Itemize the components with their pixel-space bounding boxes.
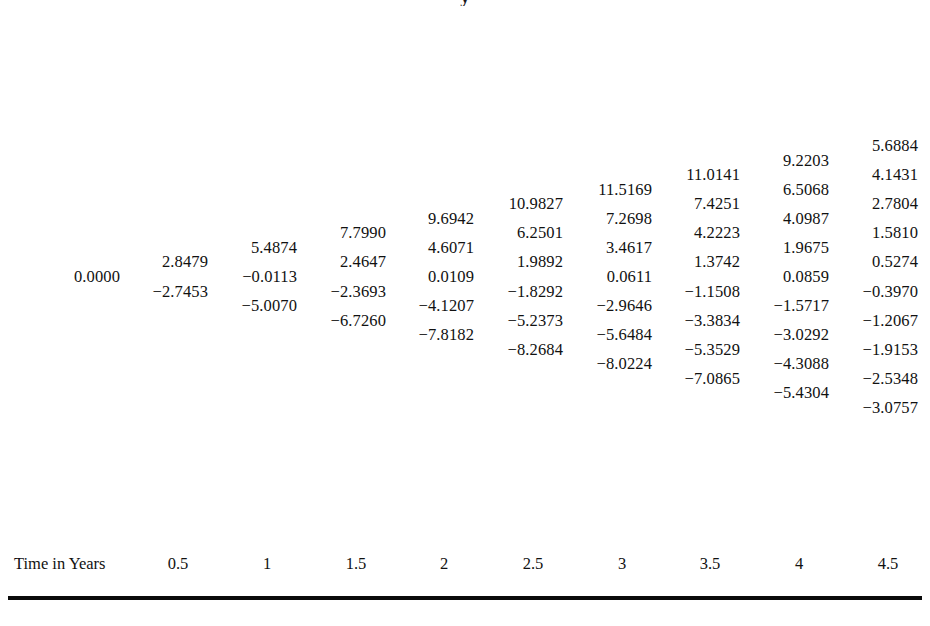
time-axis-tick: 3.5 xyxy=(700,552,721,576)
lattice-cell: −1.5717 xyxy=(774,297,829,315)
lattice-cell: −4.3088 xyxy=(774,355,829,373)
lattice-cell: −0.0113 xyxy=(242,268,297,286)
lattice-cell: 4.1431 xyxy=(872,166,918,184)
lattice-grid: 0.00002.8479−2.74535.4874−0.0113−5.00707… xyxy=(0,0,930,548)
lattice-cell: −1.1508 xyxy=(685,283,740,301)
lattice-cell: 1.9892 xyxy=(517,253,563,271)
lattice-cell: 11.0141 xyxy=(686,166,740,184)
lattice-cell: 2.8479 xyxy=(162,253,208,271)
time-axis-tick: 2.5 xyxy=(523,552,544,576)
lattice-cell: −5.4304 xyxy=(774,384,829,402)
lattice-cell: −3.0757 xyxy=(863,399,918,417)
lattice-cell: 4.2223 xyxy=(694,224,740,242)
lattice-cell: −4.1207 xyxy=(419,297,474,315)
lattice-cell: −8.2684 xyxy=(508,341,563,359)
lattice-cell: 5.6884 xyxy=(872,137,918,155)
time-axis: Time in Years 0.511.522.533.544.5 xyxy=(0,552,930,586)
lattice-cell: −1.9153 xyxy=(863,341,918,359)
lattice-cell: −5.2373 xyxy=(508,312,563,330)
time-axis-tick: 4 xyxy=(795,552,803,576)
lattice-cell: −5.6484 xyxy=(597,326,652,344)
lattice-page: y 0.00002.8479−2.74535.4874−0.0113−5.007… xyxy=(0,0,930,626)
time-axis-label: Time in Years xyxy=(14,552,106,576)
lattice-cell: 2.4647 xyxy=(340,253,386,271)
lattice-cell: 2.7804 xyxy=(872,195,918,213)
lattice-cell: 1.5810 xyxy=(872,224,918,242)
time-axis-tick: 4.5 xyxy=(878,552,899,576)
lattice-cell: 3.4617 xyxy=(606,239,652,257)
time-axis-tick: 0.5 xyxy=(168,552,189,576)
lattice-cell: −3.0292 xyxy=(774,326,829,344)
lattice-cell: −3.3834 xyxy=(685,312,740,330)
lattice-cell: 5.4874 xyxy=(251,239,297,257)
lattice-cell: −7.8182 xyxy=(419,326,474,344)
lattice-cell: −2.9646 xyxy=(597,297,652,315)
lattice-cell: −0.3970 xyxy=(863,283,918,301)
lattice-cell: 0.0859 xyxy=(783,268,829,286)
lattice-cell: 0.0611 xyxy=(607,268,652,286)
lattice-cell: 4.6071 xyxy=(428,239,474,257)
time-axis-tick: 1.5 xyxy=(346,552,367,576)
lattice-cell: 1.3742 xyxy=(694,253,740,271)
lattice-cell: 7.2698 xyxy=(606,210,652,228)
bottom-rule-divider xyxy=(8,596,922,600)
lattice-cell: 6.2501 xyxy=(517,224,563,242)
lattice-cell: −7.0865 xyxy=(685,370,740,388)
lattice-cell: −8.0224 xyxy=(597,355,652,373)
lattice-cell: 10.9827 xyxy=(509,195,563,213)
lattice-cell: 9.2203 xyxy=(783,152,829,170)
time-axis-tick: 1 xyxy=(263,552,271,576)
lattice-cell: −2.3693 xyxy=(331,283,386,301)
lattice-cell: −2.5348 xyxy=(863,370,918,388)
lattice-cell: −5.3529 xyxy=(685,341,740,359)
lattice-cell: 1.9675 xyxy=(783,239,829,257)
lattice-cell: 4.0987 xyxy=(783,210,829,228)
lattice-cell: 6.5068 xyxy=(783,181,829,199)
lattice-cell: 11.5169 xyxy=(598,181,652,199)
lattice-cell: −1.8292 xyxy=(508,283,563,301)
lattice-cell: 0.0000 xyxy=(74,268,120,286)
lattice-cell: 0.0109 xyxy=(428,268,474,286)
lattice-cell: −5.0070 xyxy=(242,297,297,315)
time-axis-tick: 2 xyxy=(440,552,448,576)
lattice-cell: 7.7990 xyxy=(340,224,386,242)
lattice-cell: −2.7453 xyxy=(153,283,208,301)
lattice-cell: 0.5274 xyxy=(872,253,918,271)
lattice-cell: 9.6942 xyxy=(428,210,474,228)
lattice-cell: 7.4251 xyxy=(694,195,740,213)
lattice-cell: −1.2067 xyxy=(863,312,918,330)
lattice-cell: −6.7260 xyxy=(331,312,386,330)
time-axis-tick: 3 xyxy=(618,552,626,576)
